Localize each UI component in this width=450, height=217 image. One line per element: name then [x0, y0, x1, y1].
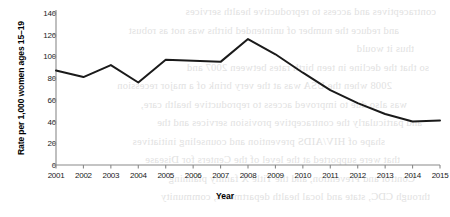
x-axis-tick-2008: 2008	[240, 171, 257, 180]
x-axis-title: Year	[0, 191, 450, 201]
x-axis-tick-2001: 2001	[48, 171, 65, 180]
x-axis-tick-labels: 2001200220032004200520062007200820092010…	[0, 0, 450, 217]
x-axis-tick-2004: 2004	[130, 171, 147, 180]
x-axis-tick-2013: 2013	[377, 171, 394, 180]
x-axis-tick-2011: 2011	[322, 171, 338, 180]
teen-birth-rate-line-chart: Rate per 1,000 women ages 15–19 02040608…	[0, 0, 450, 217]
x-axis-tick-2015: 2015	[432, 171, 449, 180]
x-axis-tick-2005: 2005	[157, 171, 174, 180]
x-axis-tick-2012: 2012	[349, 171, 366, 180]
x-axis-tick-2006: 2006	[185, 171, 202, 180]
x-axis-tick-2002: 2002	[75, 171, 92, 180]
chart-page: contraceptives and access to reproductiv…	[0, 0, 450, 217]
x-axis-tick-2010: 2010	[295, 171, 312, 180]
x-axis-tick-2007: 2007	[212, 171, 229, 180]
x-axis-tick-2009: 2009	[267, 171, 284, 180]
x-axis-tick-2014: 2014	[404, 171, 421, 180]
x-axis-tick-2003: 2003	[103, 171, 120, 180]
